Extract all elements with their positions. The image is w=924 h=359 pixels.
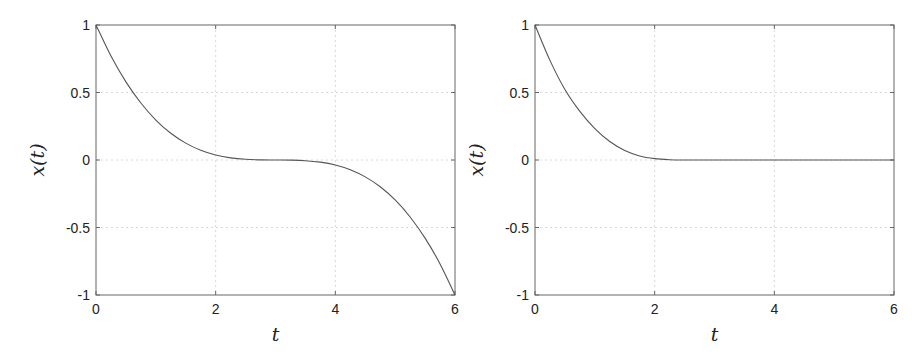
y-tick-label: 0.5 bbox=[510, 85, 530, 101]
x-axis-label: t bbox=[272, 323, 280, 345]
x-tick-label: 4 bbox=[331, 301, 339, 317]
x-tick-label: 2 bbox=[212, 301, 220, 317]
y-tick-label: -0.5 bbox=[66, 220, 90, 236]
x-tick-label: 2 bbox=[651, 301, 659, 317]
left-plot-panel: 024610.50-0.5-1tx(t) bbox=[0, 0, 462, 359]
y-tick-label: 1 bbox=[521, 17, 529, 33]
y-tick-label: 1 bbox=[82, 17, 90, 33]
y-tick-label: -1 bbox=[78, 287, 91, 303]
x-tick-label: 6 bbox=[890, 301, 898, 317]
x-tick-label: 0 bbox=[92, 301, 100, 317]
x-tick-label: 6 bbox=[451, 301, 459, 317]
right-chart-svg: 024610.50-0.5-1tx(t) bbox=[462, 0, 924, 359]
y-tick-label: 0 bbox=[82, 152, 90, 168]
left-chart-svg: 024610.50-0.5-1tx(t) bbox=[0, 0, 462, 359]
y-axis-label: x(t) bbox=[465, 143, 487, 176]
y-tick-label: -1 bbox=[517, 287, 530, 303]
x-tick-label: 4 bbox=[770, 301, 778, 317]
y-tick-label: -0.5 bbox=[505, 220, 529, 236]
x-tick-label: 0 bbox=[531, 301, 539, 317]
y-axis-label: x(t) bbox=[26, 143, 48, 176]
y-tick-label: 0 bbox=[521, 152, 529, 168]
right-plot-panel: 024610.50-0.5-1tx(t) bbox=[462, 0, 924, 359]
x-axis-label: t bbox=[711, 323, 719, 345]
y-tick-label: 0.5 bbox=[71, 85, 91, 101]
